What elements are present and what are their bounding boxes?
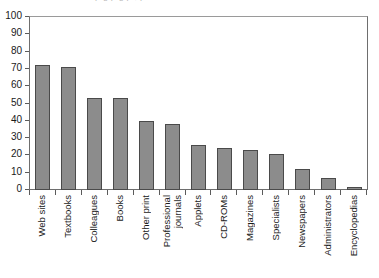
bar [269, 154, 284, 190]
x-axis-category-label: Books [107, 195, 133, 278]
bar [321, 178, 336, 190]
clipped-title-strip: p g p g p , p [0, 0, 379, 9]
bar [61, 67, 76, 190]
y-axis-tick-label: 100 [0, 11, 22, 21]
bar [87, 98, 102, 190]
x-axis-category-label-line: Other print [140, 195, 151, 240]
x-axis-category-label: Other print [133, 195, 159, 278]
y-axis-tick-label: 80 [0, 46, 22, 56]
x-axis-category-label: Encyclopedias [340, 195, 366, 278]
x-axis-category-label: Newspapers [288, 195, 314, 278]
bar [35, 65, 50, 190]
bars-container [30, 17, 367, 190]
y-axis-tick-label: 10 [0, 167, 22, 177]
y-axis-tick-label: 40 [0, 115, 22, 125]
x-axis-category-label-line: CD-ROMs [218, 195, 229, 239]
x-axis-category-label: CD-ROMs [210, 195, 236, 278]
x-axis-category-label-line: journals [172, 195, 183, 228]
x-axis-category-label-line: Newspapers [296, 195, 307, 248]
y-axis-tick-label: 70 [0, 63, 22, 73]
x-axis-category-label-line: Textbooks [62, 195, 73, 238]
bar [295, 169, 310, 190]
y-axis-tick-label: 0 [0, 184, 22, 194]
bar [139, 121, 154, 190]
clipped-title-text: p g p g p , p [95, 0, 145, 1]
bar [217, 148, 232, 190]
bar [191, 145, 206, 190]
x-axis-category-label: Textbooks [55, 195, 81, 278]
x-axis-category-label: Professionaljournals [159, 195, 185, 278]
x-axis-category-label-line: Specialists [270, 195, 281, 240]
bar [113, 98, 128, 190]
bar [165, 124, 180, 190]
x-axis-category-label: Colleagues [81, 195, 107, 278]
bar-chart-figure: p g p g p , p 1009080706050403020100 Web… [0, 0, 379, 278]
x-axis-category-label-line: Professional [161, 195, 172, 247]
y-axis-tick-label: 50 [0, 98, 22, 108]
y-axis-tick-label: 60 [0, 80, 22, 90]
x-axis-category-label-line: Encyclopedias [348, 195, 359, 256]
x-axis-category-label-line: Books [114, 195, 125, 221]
x-axis-category-label: Magazines [236, 195, 262, 278]
x-axis-category-labels: Web sitesTextbooksColleaguesBooksOther p… [29, 195, 368, 278]
x-axis-category-label: Web sites [29, 195, 55, 278]
y-axis-tick-label: 30 [0, 132, 22, 142]
x-axis-category-label-line: Administrators [322, 195, 333, 256]
x-axis-category-label-line: Web sites [36, 195, 47, 237]
x-axis-category-label-line: Colleagues [88, 195, 99, 243]
x-axis-category-label: Applets [185, 195, 211, 278]
x-axis-category-label-line: Magazines [244, 195, 255, 241]
y-axis-tick-labels: 1009080706050403020100 [0, 16, 22, 190]
y-axis-tick-label: 20 [0, 149, 22, 159]
bar [243, 150, 258, 190]
x-axis-category-label: Administrators [314, 195, 340, 278]
x-axis-category-label: Specialists [262, 195, 288, 278]
x-axis-category-label-line: Applets [192, 195, 203, 227]
y-axis-tick-label: 90 [0, 28, 22, 38]
